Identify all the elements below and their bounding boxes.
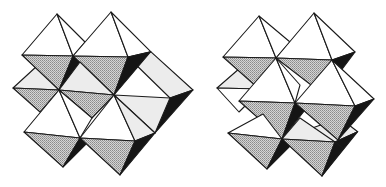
right-cluster xyxy=(217,13,374,176)
octahedra-figure xyxy=(0,0,386,187)
left-cluster xyxy=(13,12,193,175)
